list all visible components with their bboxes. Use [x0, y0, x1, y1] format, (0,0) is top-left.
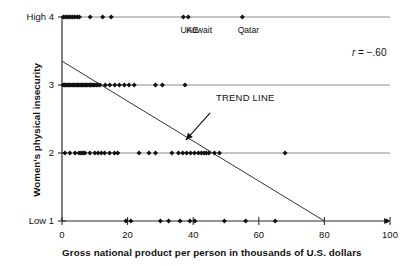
ticks-group	[58, 17, 390, 225]
axes-group	[62, 17, 390, 224]
data-point	[222, 219, 227, 224]
data-point	[109, 15, 114, 20]
plot-canvas	[0, 0, 408, 267]
y-tick-label-4: High 4	[0, 12, 54, 22]
y-tick-label-2: 2	[0, 148, 54, 158]
data-point	[88, 15, 93, 20]
y-axis-title: Women's physical insecurity	[32, 30, 42, 230]
data-point	[176, 151, 181, 156]
data-markers-group	[60, 15, 389, 224]
data-point	[186, 15, 191, 20]
data-point	[146, 151, 151, 156]
data-point	[158, 219, 163, 224]
y-tick-label-1: Low 1	[0, 216, 54, 226]
data-point	[273, 219, 278, 224]
data-point	[100, 15, 105, 20]
data-point	[217, 151, 222, 156]
data-point	[128, 219, 133, 224]
data-point	[102, 151, 107, 156]
point-label-kuwait: Kuwait	[179, 26, 219, 35]
x-tick-label-40: 40	[173, 230, 213, 240]
trend-line-annotation-label: TREND LINE	[216, 93, 274, 103]
data-point	[115, 151, 120, 156]
data-point	[240, 15, 245, 20]
data-point	[243, 219, 248, 224]
r-value-text: = −.60	[355, 47, 386, 58]
data-point	[187, 219, 192, 224]
data-point	[112, 83, 117, 88]
x-tick-label-80: 80	[304, 230, 344, 240]
data-point	[183, 83, 188, 88]
data-point	[153, 151, 158, 156]
y-tick-label-3: 3	[0, 80, 54, 90]
data-point	[160, 83, 165, 88]
data-point	[283, 151, 288, 156]
annotation-arrow-group	[186, 113, 210, 140]
x-tick-label-60: 60	[239, 230, 279, 240]
data-point	[178, 219, 183, 224]
data-point	[107, 151, 112, 156]
data-point	[169, 151, 174, 156]
data-point	[122, 83, 127, 88]
data-point	[117, 83, 122, 88]
x-tick-label-20: 20	[108, 230, 148, 240]
data-point	[181, 15, 186, 20]
data-point	[132, 83, 137, 88]
data-point	[137, 151, 142, 156]
x-tick-label-0: 0	[42, 230, 82, 240]
data-point	[62, 151, 67, 156]
data-point	[153, 83, 158, 88]
point-label-qatar: Qatar	[228, 26, 268, 35]
data-point	[166, 219, 171, 224]
x-axis-title: Gross national product per person in tho…	[62, 248, 362, 258]
data-point	[67, 151, 72, 156]
x-tick-label-100: 100	[370, 230, 408, 240]
data-point	[107, 83, 112, 88]
scatter-plot-figure: Low 123High 4 020406080100 UAEKuwaitQata…	[0, 0, 408, 267]
data-point	[87, 151, 92, 156]
correlation-coefficient-label: r = −.60	[352, 48, 386, 58]
data-point	[126, 83, 131, 88]
